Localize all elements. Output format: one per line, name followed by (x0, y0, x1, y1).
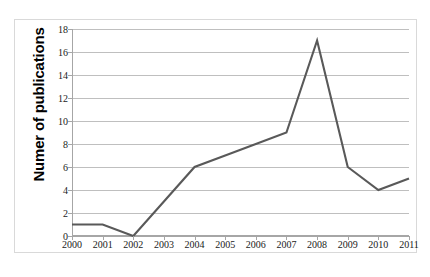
gridline (72, 236, 409, 237)
x-axis-tick-labels: 2000200120022003200420052006200720082009… (72, 239, 409, 257)
x-tick-label: 2009 (338, 239, 358, 250)
y-tick-mark (68, 75, 72, 76)
x-tick-label: 2004 (185, 239, 205, 250)
y-tick-mark (68, 29, 72, 30)
x-tick-label: 2005 (215, 239, 235, 250)
x-tick-label: 2002 (123, 239, 143, 250)
x-tick-label: 2011 (399, 239, 419, 250)
y-axis-tick-labels: 024681012141618 (48, 29, 68, 236)
y-tick-mark (68, 52, 72, 53)
y-tick-label: 10 (58, 116, 68, 127)
y-tick-label: 12 (58, 93, 68, 104)
x-tick-label: 2000 (62, 239, 82, 250)
x-tick-label: 2010 (368, 239, 388, 250)
y-tick-mark (68, 167, 72, 168)
y-tick-mark (68, 190, 72, 191)
x-tick-label: 2006 (246, 239, 266, 250)
y-tick-mark (68, 213, 72, 214)
series-polyline (72, 41, 409, 237)
y-tick-mark (68, 98, 72, 99)
x-tick-label: 2007 (276, 239, 296, 250)
y-axis-title: Numer of publications (30, 5, 47, 205)
x-tick-label: 2001 (93, 239, 113, 250)
y-tick-label: 18 (58, 24, 68, 35)
chart-figure: Numer of publications 024681012141618 20… (0, 0, 430, 277)
y-tick-label: 14 (58, 70, 68, 81)
x-tick-label: 2003 (154, 239, 174, 250)
y-tick-mark (68, 144, 72, 145)
y-tick-label: 16 (58, 47, 68, 58)
data-series-line (72, 29, 409, 236)
y-tick-mark (68, 121, 72, 122)
x-tick-label: 2008 (307, 239, 327, 250)
plot-area (72, 29, 409, 236)
